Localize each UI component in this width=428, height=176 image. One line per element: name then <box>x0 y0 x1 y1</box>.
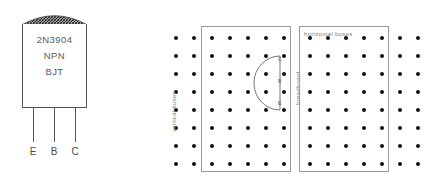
breadboard-hole <box>416 36 420 40</box>
breadboard-hole <box>174 36 178 40</box>
transistor-dome-icon <box>22 8 87 25</box>
pin-label-emitter: E <box>26 146 40 157</box>
breadboard-hole <box>192 144 196 148</box>
breadboard-right-bus-rect <box>299 26 389 172</box>
transistor-part-number: 2N3904 <box>22 34 87 45</box>
breadboard-hole <box>398 72 402 76</box>
breadboard-hole <box>174 72 178 76</box>
breadboard-hole <box>416 72 420 76</box>
label-horizontal-buses: horizontal buses <box>304 31 353 37</box>
pin-label-collector: C <box>68 146 82 157</box>
breadboard-hole <box>192 72 196 76</box>
breadboard-hole <box>416 126 420 130</box>
breadboard-left-figure: C B E <box>158 0 298 176</box>
breadboard-hole <box>398 126 402 130</box>
pin-wire-emitter <box>33 108 34 142</box>
breadboard-hole <box>398 90 402 94</box>
pin-wire-base <box>54 108 55 142</box>
breadboard-hole <box>416 108 420 112</box>
breadboard-hole <box>192 108 196 112</box>
breadboard-hole <box>174 144 178 148</box>
breadboard-hole <box>416 162 420 166</box>
breadboard-hole <box>398 54 402 58</box>
breadboard-hole <box>174 54 178 58</box>
callout-label-collector: C <box>278 56 282 62</box>
breadboard-hole <box>416 90 420 94</box>
transistor-device-label: BJT <box>22 66 87 77</box>
label-vertical-buses: vertical buses <box>171 91 177 132</box>
breadboard-hole <box>398 36 402 40</box>
breadboard-hole <box>416 54 420 58</box>
callout-label-base: B <box>278 78 281 84</box>
breadboard-hole <box>398 144 402 148</box>
breadboard-hole <box>192 54 196 58</box>
breadboard-hole <box>192 36 196 40</box>
breadboard-hole <box>192 126 196 130</box>
callout-label-emitter: E <box>278 100 281 106</box>
transistor-figure: 2N3904 NPN BJT E B C <box>0 0 150 176</box>
transistor-type-label: NPN <box>22 50 87 61</box>
breadboard-hole <box>174 162 178 166</box>
transistor-placement-callout: C B E <box>250 54 288 112</box>
pin-label-base: B <box>47 146 61 157</box>
breadboard-right-figure: horizontal buses <box>296 0 428 176</box>
pin-wire-collector <box>75 108 76 142</box>
breadboard-hole <box>398 108 402 112</box>
breadboard-hole <box>192 90 196 94</box>
breadboard-hole <box>398 162 402 166</box>
breadboard-hole <box>416 144 420 148</box>
breadboard-hole <box>192 162 196 166</box>
